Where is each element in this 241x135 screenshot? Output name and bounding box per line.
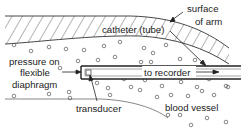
label-transducer: transducer [76,103,122,114]
label-diaphragm: diaphragm [12,79,57,90]
label-surface: surface [187,3,218,14]
label-pressure-on: pressure on [9,56,60,67]
label-blood-vessel: blood vessel [165,102,218,113]
catheter-diagram: surface of arm catheter (tube) pressure … [0,0,241,135]
transducer [86,70,91,75]
label-of-arm: of arm [195,16,222,27]
label-to-recorder: to recorder [144,67,191,78]
label-flexible: flexible [20,67,50,78]
label-catheter: catheter (tube) [102,24,164,35]
